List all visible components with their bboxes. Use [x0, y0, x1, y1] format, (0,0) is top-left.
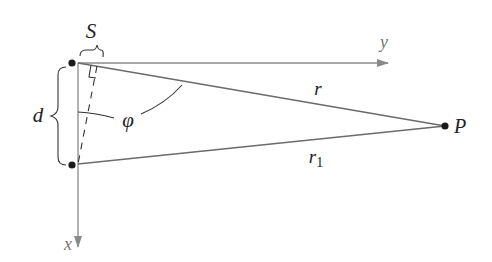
- d-brace: [51, 67, 66, 165]
- label-r: r: [314, 78, 322, 99]
- s-brace: [80, 45, 103, 57]
- label-s: S: [86, 19, 97, 43]
- right-angle-marker: [89, 65, 96, 78]
- label-r1: r1: [309, 146, 323, 170]
- diagram-canvas: S d φ r r1 P x y: [0, 0, 492, 262]
- label-y-axis: y: [378, 32, 388, 52]
- dashed-perpendicular: [78, 66, 97, 164]
- source-top-dot: [68, 59, 75, 66]
- label-phi: φ: [122, 108, 134, 132]
- label-x-axis: x: [63, 234, 72, 254]
- label-p: P: [453, 115, 466, 137]
- source-bottom-dot: [68, 161, 75, 168]
- point-p-dot: [441, 122, 448, 129]
- phi-arc-left: [78, 112, 114, 118]
- phi-arc-right: [141, 85, 182, 114]
- label-d: d: [33, 103, 44, 127]
